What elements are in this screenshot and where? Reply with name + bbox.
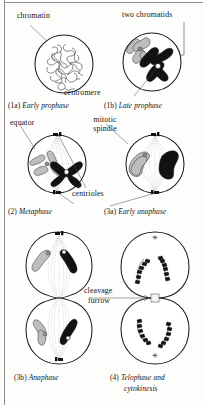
caption-1a-name: Early prophase xyxy=(22,101,69,110)
panel-3a-drawing xyxy=(112,128,198,200)
caption-panel-1a: (1a) Early prophase xyxy=(8,101,69,110)
caption-3a-number: (3a) xyxy=(104,207,116,216)
caption-panel-1b: (1b) Late prophase xyxy=(104,101,162,110)
caption-panel-3a: (3a) Early anaphase xyxy=(104,207,166,216)
panel-3a-early-anaphase xyxy=(112,128,198,200)
caption-panel-2: (2) Metaphase xyxy=(8,207,52,216)
label-centrioles: centrioles xyxy=(72,189,104,198)
caption-4-name-line2: cytokinesis xyxy=(124,384,158,393)
centriole-mark-4-top: ✳ xyxy=(152,234,158,242)
panel-4-telophase-cytokinesis: ✳ ✳ xyxy=(112,228,198,368)
leader-equator xyxy=(20,125,35,149)
caption-3a-name: Early anaphase xyxy=(118,207,166,216)
caption-3b-name: Anaphase xyxy=(29,373,59,382)
leader-centrioles-3a xyxy=(110,194,152,206)
caption-panel-3b: (3b) Anaphase xyxy=(14,373,59,382)
centriole-top-3a xyxy=(151,132,159,136)
centriole-top-2 xyxy=(53,132,61,136)
caption-1b-name: Late prophase xyxy=(119,101,163,110)
panel-1b-drawing xyxy=(112,22,200,100)
label-cleavage-line2: furrow xyxy=(88,296,110,305)
caption-1b-number: (1b) xyxy=(104,101,117,110)
caption-2-number: (2) xyxy=(8,207,17,216)
label-two-chromatids: two chromatids xyxy=(122,10,172,19)
caption-panel-4-line1: (4) Telophase and xyxy=(110,373,165,382)
label-mitotic-spindle-line1: mitotic xyxy=(86,115,124,124)
label-chromatin: chromatin xyxy=(17,11,50,20)
caption-4-number: (4) xyxy=(110,373,119,382)
caption-2-name: Metaphase xyxy=(19,207,52,216)
label-centromere: centromere xyxy=(64,88,101,97)
cleavage-furrow-midbody xyxy=(151,294,159,302)
caption-panel-4-line2: cytokinesis xyxy=(124,384,158,393)
caption-3b-number: (3b) xyxy=(14,373,27,382)
figure-page: chromatin two chromatids xyxy=(0,0,203,405)
caption-1a-number: (1a) xyxy=(8,101,20,110)
centriole-mark-4-bottom: ✳ xyxy=(152,352,158,360)
page-top-rule xyxy=(4,2,203,3)
caption-4-name-line1: Telophase and xyxy=(121,373,165,382)
panel-4-drawing: ✳ ✳ xyxy=(112,228,198,368)
panel-1b-late-prophase xyxy=(112,22,200,100)
page-left-rule xyxy=(4,0,5,405)
label-cleavage-line1: cleavage xyxy=(84,286,112,295)
label-equator: equator xyxy=(10,118,34,127)
